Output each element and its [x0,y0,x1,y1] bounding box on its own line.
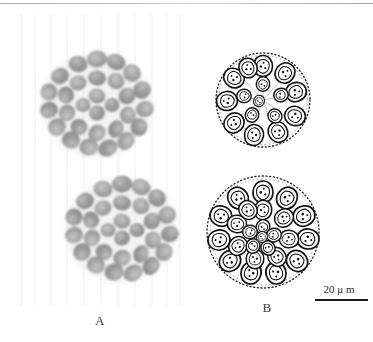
drawing-upper-colony [215,53,310,147]
panel-a-label: A [92,313,108,329]
panel-b-svg [196,40,336,295]
figure-root: A B 20 μ m [0,0,373,342]
colony-upper [34,47,158,163]
scale-bar-line [315,299,368,301]
panel-a-micrograph [8,14,194,306]
panel-b-label: B [259,300,275,316]
panel-b-line-drawings [196,40,336,295]
top-divider-rule [0,3,373,4]
colony-lower [59,172,183,288]
scale-bar: 20 μ m [313,283,369,305]
scale-bar-label: 20 μ m [313,283,365,295]
drawing-lower-colony [206,176,320,288]
panel-a-svg [8,14,194,306]
